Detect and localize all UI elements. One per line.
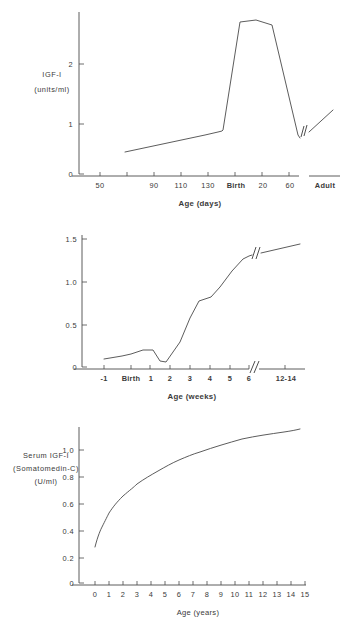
panel-3-y-axis-label-line-3: (U/ml) — [34, 477, 57, 486]
panel-2-data-curve-after-break — [261, 244, 300, 253]
panel-2-x-axis-title: Age (weeks) — [168, 392, 217, 401]
panel-3-ytick-label-08: 0.8 — [63, 473, 74, 482]
panel-3-xtick-label-13: 13 — [272, 590, 281, 599]
panel-3-xtick-label-1: 1 — [107, 590, 112, 599]
panel-3-xtick-label-9: 9 — [219, 590, 224, 599]
panel-3-xtick-label-14: 14 — [286, 590, 295, 599]
panel-1-data-curve — [125, 20, 300, 152]
panel-3-ytick-label-06: 0.6 — [63, 500, 74, 509]
panel-3-data-curve — [95, 429, 300, 547]
panel-2-xtick-label-12-14: 12-14 — [276, 374, 297, 383]
panel-2-axis-break-marker — [250, 361, 259, 373]
panel-1-xtick-label-110: 110 — [175, 181, 188, 190]
panel-1-y-axis-label-line-1: IGF-I — [42, 70, 61, 79]
panel-1-ytick-label-0: 0 — [68, 170, 73, 179]
panel-3-x-axis-title: Age (years) — [177, 608, 220, 617]
panel-1-xtick-label-130: 130 — [201, 181, 215, 190]
panel-2-svg-content: 0 0.5 1.0 1.5 -1 Birth 1 2 3 4 5 6 12-14… — [0, 215, 346, 405]
panel-3-xtick-label-2: 2 — [121, 590, 126, 599]
panel-1-x-axis-title: Age (days) — [179, 199, 222, 208]
panel-3-xtick-label-4: 4 — [149, 590, 154, 599]
panel-2-xtick-label-6: 6 — [247, 374, 251, 383]
panel-2-xtick-label-birth: Birth — [122, 374, 141, 383]
panel-3-ytick-label-0: 0 — [69, 579, 74, 588]
panel-3-xtick-label-6: 6 — [177, 590, 182, 599]
panel-1-ytick-label-2: 2 — [68, 60, 73, 69]
panel-2-data-curve — [104, 255, 252, 362]
panel-2-xtick-label-minus1: -1 — [100, 374, 107, 383]
panel-2-ytick-label-15: 1.5 — [66, 235, 77, 244]
panel-2-xtick-label-5: 5 — [228, 374, 232, 383]
panel-2-xtick-label-1: 1 — [149, 374, 153, 383]
panel-2-xtick-label-2: 2 — [168, 374, 172, 383]
chart-panel-serum-igf1-years: 0 0.2 0.4 0.6 0.8 1.0 Serum IGF-I (Somat… — [0, 405, 346, 634]
panel-3-xtick-label-15: 15 — [300, 590, 309, 599]
panel-1-xtick-label-birth: Birth — [227, 181, 246, 190]
panel-3-ytick-label-04: 0.4 — [63, 527, 74, 536]
panel-3-y-axis-label-line-2: (Somatomedin-C) — [13, 464, 79, 473]
panel-3-xtick-label-3: 3 — [135, 590, 140, 599]
panel-3-xtick-label-7: 7 — [191, 590, 196, 599]
panel-3-xtick-label-0: 0 — [93, 590, 98, 599]
panel-3-xtick-label-10: 10 — [230, 590, 239, 599]
panel-3-xtick-label-12: 12 — [258, 590, 267, 599]
panel-1-y-axis-label-line-2: (units/ml) — [34, 85, 69, 94]
panel-2-ytick-label-0: 0 — [72, 363, 77, 372]
panel-3-svg: 0 0.2 0.4 0.6 0.8 1.0 Serum IGF-I (Somat… — [0, 405, 346, 634]
panel-2-ytick-label-05: 0.5 — [66, 321, 77, 330]
panel-1-ytick-label-1: 1 — [68, 120, 73, 129]
panel-1-xtick-label-90: 90 — [149, 181, 158, 190]
panel-3-xtick-label-11: 11 — [245, 590, 253, 599]
panel-3-xtick-label-8: 8 — [205, 590, 210, 599]
panel-1-svg: 0 1 2 IGF-I (units/ml) 50 90 110 130 Bir… — [0, 0, 346, 215]
panel-1-xtick-label-adult: Adult — [315, 181, 336, 190]
panel-3-y-axis-label-line-1: Serum IGF-I — [23, 451, 69, 460]
panel-2-ytick-label-10: 1.0 — [66, 278, 77, 287]
panel-3-xtick-label-5: 5 — [163, 590, 168, 599]
panel-1-axis-break-marker — [301, 125, 307, 137]
panel-2-curve-break-marker — [252, 247, 260, 259]
panel-3-ytick-label-02: 0.2 — [63, 554, 74, 563]
panel-1-xtick-label-50: 50 — [95, 181, 104, 190]
panel-2-xtick-label-3: 3 — [188, 374, 192, 383]
panel-1-xtick-label-20: 20 — [258, 181, 267, 190]
panel-1-data-curve-adult — [309, 110, 333, 132]
chart-panel-igf1-weeks: 0 0.5 1.0 1.5 -1 Birth 1 2 3 4 5 6 12-14… — [0, 215, 346, 405]
panel-1-xtick-label-60: 60 — [285, 181, 294, 190]
panel-2-xtick-label-4: 4 — [208, 374, 213, 383]
chart-panel-igf1-days: 0 1 2 IGF-I (units/ml) 50 90 110 130 Bir… — [0, 0, 346, 215]
